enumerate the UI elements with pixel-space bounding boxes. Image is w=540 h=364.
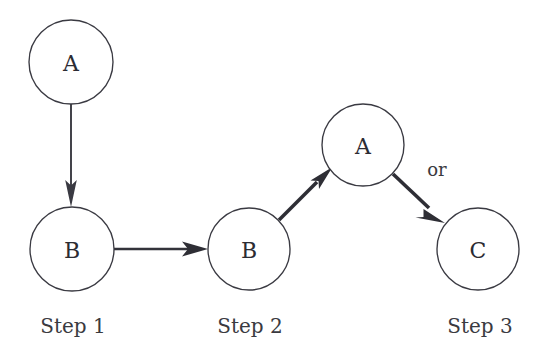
edge-b2-to-a2 (279, 167, 333, 220)
node-c1-label: C (470, 238, 487, 263)
diagram-canvas: A B B A C or Step 1 Step 2 Step 3 (0, 0, 540, 364)
node-c1[interactable]: C (437, 208, 519, 290)
node-b1[interactable]: B (30, 207, 114, 291)
edge-b2-to-a2-line (279, 182, 317, 220)
node-a2[interactable]: A (322, 104, 404, 186)
diagram-svg: A B B A C or Step 1 Step 2 Step 3 (0, 0, 540, 364)
edge-b1-to-b2 (114, 242, 208, 257)
edge-a2-to-c1-line (393, 174, 429, 208)
node-b2-label: B (241, 238, 257, 263)
edge-a1-to-b1 (65, 104, 77, 207)
node-a2-label: A (354, 134, 372, 159)
node-a1[interactable]: A (29, 20, 113, 104)
edge-a2-to-c1 (393, 174, 445, 223)
step-label-2: Step 2 (217, 314, 282, 338)
edge-label-or: or (427, 159, 447, 180)
step-label-1: Step 1 (40, 314, 105, 338)
step-label-3: Step 3 (447, 314, 512, 338)
node-b2[interactable]: B (208, 208, 290, 290)
node-a1-label: A (62, 51, 80, 76)
edge-a2-to-c1-arrowhead (416, 209, 446, 223)
node-b1-label: B (64, 238, 80, 263)
